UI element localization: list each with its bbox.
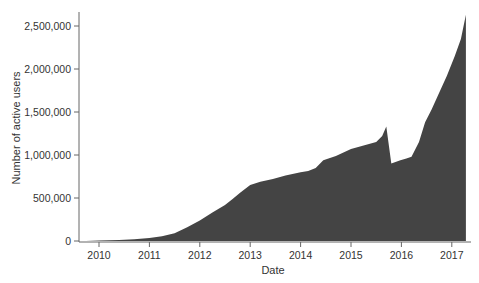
x-axis-title: Date <box>261 264 284 276</box>
x-tick-label: 2013 <box>239 249 263 261</box>
y-tick-label: 500,000 <box>33 192 71 204</box>
x-tick-label: 2015 <box>339 249 363 261</box>
x-tick-label: 2012 <box>188 249 212 261</box>
y-axis-ticks: 0500,0001,000,0001,500,0002,000,0002,500… <box>24 20 79 247</box>
x-tick-label: 2010 <box>87 249 111 261</box>
active-users-area <box>86 15 466 241</box>
area-chart: 0500,0001,000,0001,500,0002,000,0002,500… <box>0 0 479 283</box>
x-tick-label: 2011 <box>138 249 161 261</box>
y-tick-label: 2,000,000 <box>24 63 71 75</box>
x-tick-label: 2016 <box>390 249 414 261</box>
x-axis-ticks: 20102011201220132014201520162017 <box>87 242 463 261</box>
y-tick-label: 1,000,000 <box>24 149 71 161</box>
y-tick-label: 2,500,000 <box>24 20 71 32</box>
y-tick-label: 1,500,000 <box>24 106 71 118</box>
x-tick-label: 2017 <box>440 249 464 261</box>
x-tick-label: 2014 <box>289 249 313 261</box>
plot-area <box>86 15 466 241</box>
y-tick-label: 0 <box>65 235 71 247</box>
y-axis-title: Number of active users <box>10 71 22 185</box>
